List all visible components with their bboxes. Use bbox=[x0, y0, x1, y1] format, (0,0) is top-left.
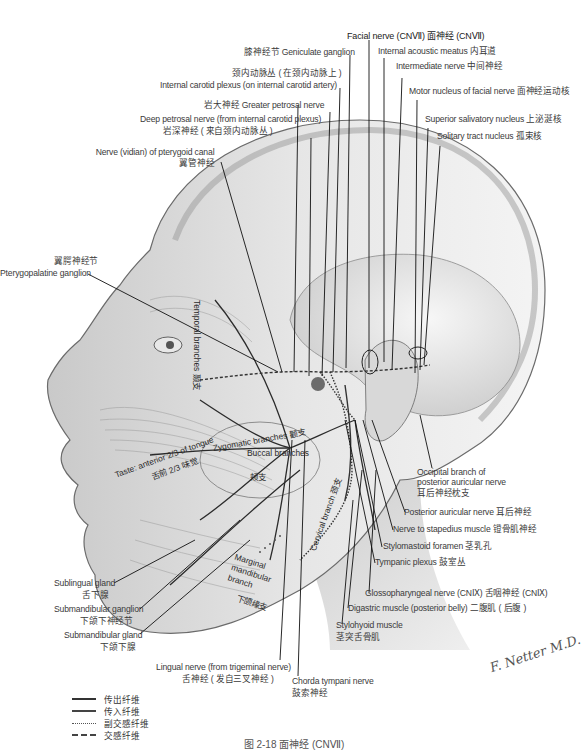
label-internal-acoustic-meatus: Internal acoustic meatus 内耳道 bbox=[378, 46, 496, 57]
label-buccal-zh: 颊支 bbox=[250, 470, 266, 482]
figure-caption: 图 2-18 面神经 (CNⅦ) bbox=[0, 736, 588, 751]
label-temporal-branches: Temporal branches 颞支 bbox=[192, 300, 204, 390]
label-intermediate-nerve: Intermediate nerve 中间神经 bbox=[396, 61, 503, 72]
label-deep-petrosal-en: Deep petrosal nerve (from internal carot… bbox=[140, 114, 321, 125]
legend-item-efferent: 传出纤维 bbox=[72, 693, 149, 705]
label-occipital-en-2: posterior auricular nerve bbox=[417, 477, 506, 488]
legend-label: 传入纤维 bbox=[104, 705, 140, 717]
label-sublingual-en: Sublingual gland bbox=[54, 578, 115, 589]
label-glossopharyngeal: Glossopharyngeal nerve (CNⅨ) 舌咽神经 (CNⅨ) bbox=[365, 588, 548, 599]
label-chorda-zh: 鼓索神经 bbox=[292, 688, 327, 699]
label-deep-petrosal-zh: 岩深神经 ( 来自颈内动脉丛 ) bbox=[163, 126, 273, 137]
dotted-line-icon bbox=[72, 723, 96, 724]
label-digastric: Digastric muscle (posterior belly) 二腹肌 (… bbox=[348, 603, 526, 614]
label-lingual-en: Lingual nerve (from trigeminal nerve) bbox=[156, 662, 291, 673]
label-occipital-en-1: Occipital branch of bbox=[417, 467, 485, 478]
label-buccal-en: Buccal branches bbox=[247, 448, 309, 458]
label-vidian-en: Nerve (vidian) of pterygoid canal bbox=[87, 147, 214, 158]
label-submandibular-ganglion-zh: 下颌下神经节 bbox=[80, 616, 133, 627]
legend-label: 传出纤维 bbox=[104, 693, 140, 705]
label-tympanic-plexus: Tympanic plexus 鼓室丛 bbox=[375, 557, 466, 568]
label-vidian-zh: 翼管神经 bbox=[87, 158, 214, 169]
label-nerve-to-stapedius: Nerve to stapedius muscle 镫骨肌神经 bbox=[393, 524, 537, 535]
label-pterygopalatine-zh: 翼腭神经节 bbox=[54, 256, 98, 267]
label-facial-nerve: Facial nerve (CNⅦ) 面神经 (CNⅦ) bbox=[347, 31, 484, 42]
solid-line-icon bbox=[72, 698, 96, 700]
label-pterygopalatine-en: Pterygopalatine ganglion bbox=[0, 268, 91, 279]
label-submandibular-ganglion-en: Submandibular ganglion bbox=[54, 604, 143, 615]
thick-line-icon bbox=[72, 710, 96, 712]
label-sublingual-zh: 舌下腺 bbox=[82, 590, 109, 601]
legend: 传出纤维 传入纤维 副交感纤维 交感纤维 bbox=[72, 693, 149, 741]
label-submandibular-gland-en: Submandibular gland bbox=[64, 630, 142, 641]
label-occipital-zh: 耳后神经枕支 bbox=[417, 488, 470, 499]
label-submandibular-gland-zh: 下颌下腺 bbox=[100, 642, 135, 653]
label-internal-carotid-plexus-zh: 颈内动脉丛 ( 在颈内动脉上 ) bbox=[232, 68, 342, 79]
legend-item-parasympathetic: 副交感纤维 bbox=[72, 717, 149, 729]
label-greater-petrosal: 岩大神经 Greater petrosal nerve bbox=[204, 100, 324, 111]
label-motor-nucleus: Motor nucleus of facial nerve 面神经运动核 bbox=[409, 86, 570, 97]
label-solitary-tract: Solitary tract nucleus 孤束核 bbox=[437, 131, 542, 142]
legend-label: 副交感纤维 bbox=[104, 717, 149, 729]
label-vidian-nerve: Nerve (vidian) of pterygoid canal 翼管神经 bbox=[87, 147, 214, 168]
label-stylomastoid-foramen: Stylomastoid foramen 茎乳孔 bbox=[383, 541, 492, 552]
label-chorda-en: Chorda tympani nerve bbox=[292, 676, 374, 687]
label-stylohyoid-zh: 茎突舌骨肌 bbox=[336, 632, 380, 643]
label-internal-carotid-plexus-en: Internal carotid plexus (on internal car… bbox=[160, 80, 337, 91]
label-stylohyoid-en: Stylohyoid muscle bbox=[336, 620, 403, 631]
label-lingual-zh: 舌神经 ( 发自三叉神经 ) bbox=[182, 674, 274, 685]
label-geniculate-ganglion: 膝神经节 Geniculate ganglion bbox=[244, 47, 355, 58]
label-superior-salivatory: Superior salivatory nucleus 上泌涎核 bbox=[425, 114, 562, 125]
label-posterior-auricular: Posterior auricular nerve 耳后神经 bbox=[404, 507, 532, 518]
legend-item-afferent: 传入纤维 bbox=[72, 705, 149, 717]
